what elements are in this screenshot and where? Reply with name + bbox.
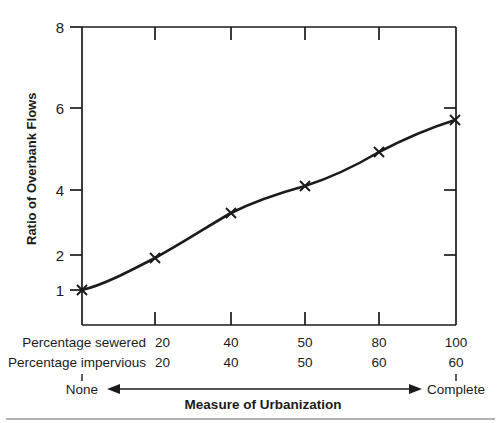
data-curve [82, 120, 455, 290]
row1-value-5: 100 [445, 335, 468, 350]
y-tick-labels: 8 6 4 2 1 [56, 19, 64, 299]
row2-value-5: 60 [448, 355, 463, 370]
y-axis-ticks-right [444, 108, 456, 255]
row1-value-1: 20 [155, 335, 170, 350]
y-tick-label-2: 2 [56, 247, 64, 264]
x-axis-table-row-impervious: Percentage impervious 20 40 50 60 60 [8, 355, 464, 370]
x-axis-title: Measure of Urbanization [185, 397, 342, 412]
data-point-2 [150, 253, 160, 263]
chart-figure: 8 6 4 2 1 Ratio of Overbank Flows [0, 0, 501, 423]
row1-value-2: 40 [223, 335, 238, 350]
x-axis-ticks [155, 312, 379, 325]
row1-value-3: 50 [297, 335, 312, 350]
row2-value-3: 50 [297, 355, 312, 370]
chart-canvas: 8 6 4 2 1 Ratio of Overbank Flows [0, 0, 501, 423]
data-point-3 [226, 208, 236, 218]
double-arrow-icon [107, 384, 422, 394]
plot-frame [82, 27, 456, 325]
scale-end-label-complete: Complete [427, 382, 485, 397]
data-point-5 [374, 147, 384, 157]
row2-value-2: 40 [223, 355, 238, 370]
row1-value-4: 80 [371, 335, 386, 350]
row2-value-1: 20 [155, 355, 170, 370]
y-tick-label-8: 8 [56, 19, 64, 36]
urbanization-scale: None Complete Measure of Urbanization [66, 374, 485, 412]
y-axis-ticks [70, 27, 82, 290]
x-axis-ticks-top [155, 27, 379, 40]
y-axis-title: Ratio of Overbank Flows [24, 93, 39, 245]
row-label-percentage-sewered: Percentage sewered [22, 335, 146, 350]
row2-value-4: 60 [371, 355, 386, 370]
y-tick-label-1: 1 [56, 282, 64, 299]
x-axis-table-row-sewered: Percentage sewered 20 40 50 80 100 [22, 335, 467, 350]
row-label-percentage-impervious: Percentage impervious [8, 355, 146, 370]
y-tick-label-6: 6 [56, 100, 64, 117]
y-tick-label-4: 4 [56, 182, 64, 199]
scale-end-label-none: None [66, 382, 98, 397]
